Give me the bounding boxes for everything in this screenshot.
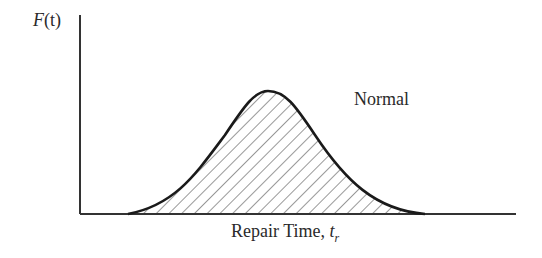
- x-axis-label: Repair Time, tr: [231, 221, 339, 246]
- y-label-f: F: [33, 10, 44, 30]
- y-axis-label: F(t): [33, 10, 61, 31]
- x-label-text: Repair Time,: [231, 221, 330, 241]
- normal-distribution-diagram: [0, 0, 542, 258]
- y-label-arg: (t): [44, 10, 61, 30]
- curve-label-normal: Normal: [354, 89, 409, 110]
- x-label-sub: r: [335, 231, 340, 245]
